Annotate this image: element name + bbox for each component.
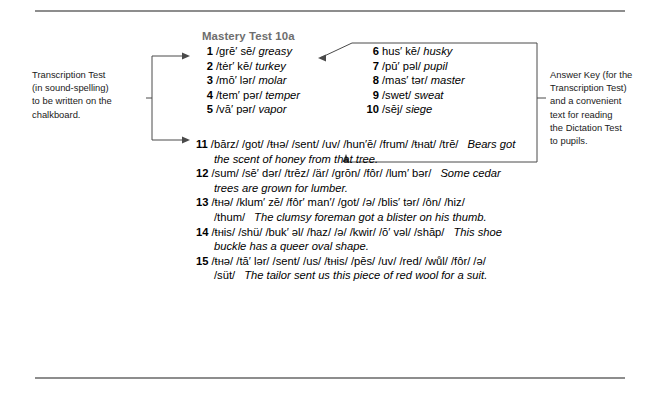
word-item-word: turkey <box>255 60 285 72</box>
word-item-word: molar <box>258 74 286 86</box>
word-item: 5/vā′ pər/vapor <box>196 102 346 117</box>
sentence-item-number: 12 <box>196 167 208 179</box>
word-list-columns: 1/grē′ sē/greasy2/tėr′ kē/turkey3/mō′ lə… <box>196 44 526 136</box>
test-title: Mastery Test 10a <box>202 30 526 42</box>
annotation-left: Transcription Test (in sound-spelling) t… <box>32 68 154 121</box>
word-item-number: 6 <box>362 44 379 59</box>
word-item: 10/sēj/siege <box>362 102 512 117</box>
sentence-item: 15/ŧнə/ /tā′ lər/ /sent/ /us/ /ŧнis/ /pē… <box>196 254 526 283</box>
word-item-number: 10 <box>362 102 379 117</box>
word-item-phonetic: /pū′ pəl/ <box>382 60 421 72</box>
mastery-test-sheet: Mastery Test 10a 1/grē′ sē/greasy2/tėr′ … <box>196 30 526 283</box>
annotation-right: Answer Key (for the Transcription Test) … <box>550 68 654 147</box>
word-item-word: temper <box>265 89 300 101</box>
word-item-number: 1 <box>196 44 213 59</box>
sentence-item-phonetic: /sum/ /sē′ dər/ /trēz/ /är/ /grōn/ /fôr/… <box>211 167 431 179</box>
word-item-number: 3 <box>196 73 213 88</box>
word-item-number: 5 <box>196 102 213 117</box>
word-item: 6hus′ kē/husky <box>362 44 512 59</box>
sentence-item-phonetic: /bārz/ /got/ /ŧнə/ /sent/ /uv/ /hun′ē/ /… <box>211 138 459 150</box>
sentence-item-text: The tailor sent us this piece of red woo… <box>244 269 487 281</box>
word-item: 7/pū′ pəl/pupil <box>362 59 512 74</box>
word-item-phonetic: /vā′ pər/ <box>216 103 255 115</box>
word-item-number: 2 <box>196 59 213 74</box>
word-item-phonetic: /mō′ lər/ <box>216 74 255 86</box>
word-item-number: 9 <box>362 88 379 103</box>
word-item: 2/tėr′ kē/turkey <box>196 59 346 74</box>
sentence-item-number: 11 <box>196 138 208 150</box>
word-item: 8/mas′ tər/master <box>362 73 512 88</box>
word-item-phonetic: /tem′ pər/ <box>216 89 262 101</box>
word-item-phonetic: /tėr′ kē/ <box>216 60 252 72</box>
word-item-word: vapor <box>258 103 286 115</box>
word-item-phonetic: hus′ kē/ <box>382 45 420 57</box>
word-item: 4/tem′ pər/temper <box>196 88 346 103</box>
sentence-item: 12/sum/ /sē′ dər/ /trēz/ /är/ /grōn/ /fô… <box>196 166 526 195</box>
word-item-phonetic: /sēj/ <box>382 103 403 115</box>
sentence-list: 11/bārz/ /got/ /ŧнə/ /sent/ /uv/ /hun′ē/… <box>196 137 526 283</box>
word-item-number: 4 <box>196 88 213 103</box>
sentence-item-number: 14 <box>196 226 208 238</box>
sentence-item-phonetic: /ŧнis/ /shü/ /buk′ əl/ /haz/ /ə/ /kwir/ … <box>211 226 444 238</box>
word-item-word: sweat <box>414 89 443 101</box>
word-item-word: master <box>431 74 465 86</box>
sentence-item-text: The clumsy foreman got a blister on his … <box>254 211 487 223</box>
word-column-left: 1/grē′ sē/greasy2/tėr′ kē/turkey3/mō′ lə… <box>196 44 346 117</box>
word-item: 1/grē′ sē/greasy <box>196 44 346 59</box>
bottom-divider-rule <box>35 377 625 379</box>
sentence-item: 14/ŧнis/ /shü/ /buk′ əl/ /haz/ /ə/ /kwir… <box>196 225 526 254</box>
word-item: 9/swet/sweat <box>362 88 512 103</box>
word-item-number: 8 <box>362 73 379 88</box>
word-item-phonetic: /grē′ sē/ <box>216 45 255 57</box>
word-item: 3/mō′ lər/molar <box>196 73 346 88</box>
sentence-item: 13/ŧнə/ /klum′ zē/ /fôr′ man′/ /got/ /ə/… <box>196 195 526 224</box>
word-item-word: greasy <box>258 45 292 57</box>
word-item-word: husky <box>423 45 452 57</box>
sentence-item-number: 13 <box>196 196 208 208</box>
word-column-right: 6hus′ kē/husky7/pū′ pəl/pupil8/mas′ tər/… <box>362 44 512 117</box>
word-item-phonetic: /mas′ tər/ <box>382 74 428 86</box>
word-item-number: 7 <box>362 59 379 74</box>
sentence-item: 11/bārz/ /got/ /ŧнə/ /sent/ /uv/ /hun′ē/… <box>196 137 526 166</box>
word-item-word: pupil <box>424 60 448 72</box>
sentence-item-number: 15 <box>196 255 208 267</box>
word-item-phonetic: /swet/ <box>382 89 411 101</box>
top-divider-rule <box>35 10 625 12</box>
word-item-word: siege <box>406 103 433 115</box>
